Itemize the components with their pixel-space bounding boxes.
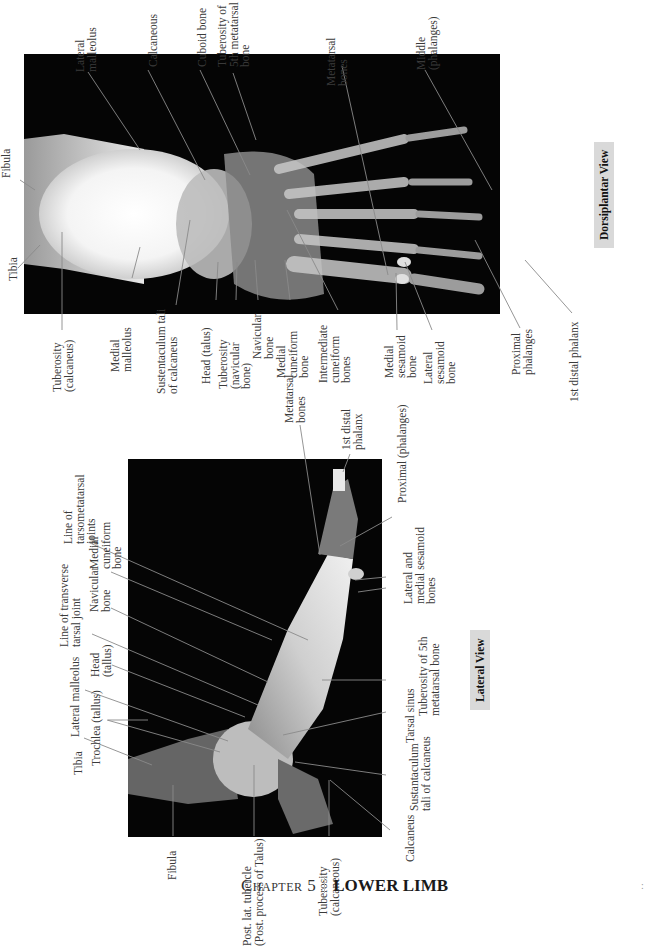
label-lat-line-transverse-tarsal: Line of transverse tarsal joint <box>59 564 82 647</box>
lateral-foot-illustration <box>128 459 382 837</box>
dorsiplantar-view-tag: Dorsiplantar View <box>594 142 614 248</box>
label-lat-tuberosity-5th-metatarsal: Tuberosity of 5th metatarsal bone <box>418 637 441 716</box>
label-lat-head-tallus: Head (tallus) <box>90 644 113 677</box>
label-dp-middle-phalanges: Middle (phalanges) <box>416 16 439 70</box>
label-dp-cuboid-bone: Cuboid bone <box>197 8 209 67</box>
label-lat-metatarsal-bones: Metatarsal bones <box>284 374 307 423</box>
footer-divider <box>324 876 325 893</box>
label-dp-tuberosity-calcaneus: Tuberosity (calcaneus) <box>52 340 75 392</box>
dorsiplantar-xray-image <box>24 54 500 314</box>
label-dp-medial-malleolus: Medial malleolus <box>110 327 133 372</box>
label-lat-fibula: Fibula <box>167 851 179 880</box>
label-lat-first-distal-phalanx: 1st distal phalanx <box>341 409 364 450</box>
label-dp-medial-sesamoid: Medial sesamoid bone <box>384 335 419 378</box>
label-dp-fibula: Fibula <box>1 149 13 178</box>
label-dp-navicular-bone: Navicular bone <box>252 314 275 359</box>
label-dp-proximal-phalanges: Proximal phalanges <box>511 329 534 375</box>
label-dp-first-distal-phalanx: 1st distal phalanx <box>569 322 581 403</box>
label-dp-tuberosity-navicular: Tuberosity (navicular bone) <box>218 340 253 389</box>
label-lat-sustantaculum: Sustantaculum tali of calcaneus <box>409 736 432 811</box>
chapter-label: Chapter 5 <box>241 876 316 895</box>
label-dp-metatarsal-bones: Metatarsal bones <box>326 37 349 86</box>
label-dp-intermediate-cuneiform: Intermediate cuneiform bones <box>318 325 353 383</box>
label-dp-calcaneous: Calcaneous <box>148 14 160 67</box>
label-lat-calcaneus: Calcaneus <box>405 815 417 862</box>
label-dp-head-talus: Head (talus) <box>201 327 213 384</box>
lateral-view-tag: Lateral View <box>470 630 490 710</box>
lateral-xray-image <box>128 459 382 837</box>
label-lat-medial-cuneiform: Medial cuneiform bone <box>89 522 124 569</box>
label-lat-tibia: Tibia <box>73 751 85 775</box>
label-lat-lateral-malleolus: Lateral malleolus <box>70 657 82 737</box>
label-dp-medial-cuneiform: Medial cuneiform bone <box>276 331 311 378</box>
label-lat-trochlea-tallus: Trochlea (tallus) <box>91 690 103 766</box>
label-lat-navicular-bone: Navicular bone <box>89 567 112 612</box>
page-footer: Chapter 5LOWER LIMB <box>241 876 448 896</box>
page-edge-mark: : <box>641 880 644 891</box>
label-dp-lateral-sesamoid: Lateral sesamoid bone <box>423 341 458 384</box>
label-dp-tibia: Tibia <box>8 257 20 281</box>
label-dp-sustentaculum-tali: Sustentaculum tali of calcaneus <box>156 309 179 394</box>
label-lat-tarsal-sinus: Tarsal sinus <box>405 689 417 743</box>
label-lat-sesamoid-bones: Lateral and medial sesamoid bones <box>403 527 438 604</box>
label-dp-lateral-malleolus: Lateral malleolus <box>75 27 98 72</box>
chapter-title: LOWER LIMB <box>333 876 448 895</box>
label-lat-proximal-phalanges: Proximal (phalanges) <box>397 404 409 503</box>
dorsiplantar-foot-illustration <box>24 54 500 314</box>
label-dp-tuberosity-5th-metatarsal: Tuberosity of 5th metatarsal bone <box>217 2 252 67</box>
